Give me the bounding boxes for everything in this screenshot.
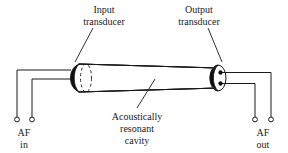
diagram-canvas: Input transducer Output transducer Acous…: [0, 0, 288, 153]
output-transducer-label: Output transducer: [178, 4, 220, 27]
output-transducer-leader: [208, 28, 222, 62]
input-transducer-label: Input transducer: [83, 4, 125, 27]
af-in-label: AF in: [18, 127, 31, 150]
af-out-wire-upper: [222, 73, 271, 118]
cavity-cylinder-body: [79, 64, 218, 92]
af-out-terminal-2[interactable]: [269, 117, 274, 122]
af-in-label-line1: AF: [18, 127, 31, 138]
af-out-wiring-group: [222, 73, 273, 122]
output-contact-dot-upper: [219, 71, 223, 75]
af-in-wire-upper: [17, 70, 71, 117]
cavity-label-line2: resonant: [120, 123, 154, 134]
input-transducer-label-line1: Input: [93, 4, 114, 15]
af-out-terminal-1[interactable]: [253, 117, 258, 122]
output-transducer-label-line2: transducer: [178, 16, 220, 27]
af-in-wiring-group: [15, 70, 71, 122]
af-out-label-line2: out: [257, 139, 270, 150]
af-out-wire-lower: [222, 84, 255, 118]
output-transducer-group: [210, 65, 226, 91]
cavity-label: Acoustically resonant cavity: [112, 111, 163, 146]
input-transducer-leader: [75, 28, 93, 62]
acoustic-resonator-figure: Input transducer Output transducer Acous…: [0, 0, 288, 153]
af-in-terminal-2[interactable]: [30, 117, 35, 122]
af-in-label-line2: in: [20, 139, 28, 150]
input-transducer-label-line2: transducer: [83, 16, 125, 27]
resonant-cavity-group: [74, 64, 221, 92]
output-contact-dot-lower: [219, 82, 223, 86]
output-transducer-label-line1: Output: [185, 4, 213, 15]
af-out-label: AF out: [257, 127, 270, 150]
af-out-label-line1: AF: [257, 127, 270, 138]
af-in-terminal-1[interactable]: [15, 117, 20, 122]
cavity-label-line1: Acoustically: [112, 111, 163, 122]
cavity-label-line3: cavity: [125, 135, 149, 146]
af-in-wire-lower: [32, 79, 71, 117]
